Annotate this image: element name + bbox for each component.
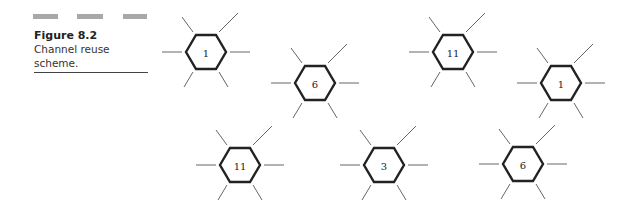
spoke-line <box>328 103 337 118</box>
cell-6: 6 <box>271 44 359 118</box>
spoke-line <box>293 103 302 118</box>
spoke-line <box>431 72 440 87</box>
cell-11: 11 <box>196 126 284 200</box>
channel-label: 11 <box>234 161 247 172</box>
channel-label: 6 <box>520 160 526 171</box>
channel-label: 6 <box>312 79 318 90</box>
spoke-line <box>501 184 510 199</box>
spoke-line <box>253 126 272 145</box>
spoke-line <box>539 103 548 118</box>
spoke-line <box>466 72 475 87</box>
cell-1: 1 <box>162 13 250 87</box>
cell-1: 1 <box>517 44 605 118</box>
spoke-line <box>253 185 262 200</box>
spoke-line <box>499 129 510 144</box>
spoke-line <box>536 125 555 144</box>
spoke-line <box>574 44 593 63</box>
spoke-line <box>219 72 228 87</box>
spoke-line <box>429 17 440 32</box>
channel-reuse-diagram: 161111136 <box>0 0 636 215</box>
spoke-line <box>536 184 545 199</box>
spoke-line <box>182 17 193 32</box>
spoke-line <box>184 72 193 87</box>
spoke-line <box>218 185 227 200</box>
spoke-line <box>219 13 238 32</box>
cell-6: 6 <box>479 125 567 199</box>
channel-label: 11 <box>447 48 460 59</box>
spoke-line <box>216 130 227 145</box>
spoke-line <box>328 44 347 63</box>
spoke-line <box>291 48 302 63</box>
cell-3: 3 <box>340 126 428 200</box>
channel-label: 3 <box>381 161 387 172</box>
spoke-line <box>397 126 416 145</box>
channel-label: 1 <box>203 48 209 59</box>
spoke-line <box>362 185 371 200</box>
cell-11: 11 <box>409 13 497 87</box>
spoke-line <box>397 185 406 200</box>
spoke-line <box>537 48 548 63</box>
spoke-line <box>466 13 485 32</box>
channel-label: 1 <box>558 79 564 90</box>
spoke-line <box>574 103 583 118</box>
spoke-line <box>360 130 371 145</box>
